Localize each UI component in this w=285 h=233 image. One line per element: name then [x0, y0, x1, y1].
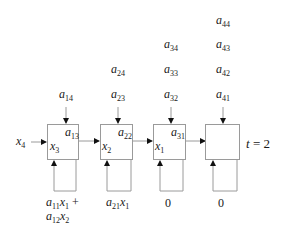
label-a42: a42 — [216, 63, 230, 78]
label-a32: a32 — [164, 88, 178, 103]
label-a34: a34 — [164, 38, 178, 53]
weight-a31: a31 — [171, 126, 185, 141]
label-a41: a41 — [216, 88, 230, 103]
feedback-loop-3 — [160, 160, 183, 191]
weight-a22: a22 — [118, 126, 132, 141]
label-a44: a44 — [216, 14, 230, 29]
accumulator-2: a21x1 — [106, 196, 129, 211]
feedback-loop-1 — [54, 160, 76, 191]
cell-4 — [205, 124, 240, 160]
label-a14: a14 — [59, 88, 73, 103]
state-x1: x1 — [155, 140, 164, 155]
time-label: t = 2 — [246, 137, 270, 150]
state-x2: x2 — [102, 140, 111, 155]
label-a23: a23 — [111, 88, 125, 103]
accumulator-3: 0 — [165, 197, 171, 209]
weight-a13: a13 — [65, 126, 79, 141]
input-x4: x4 — [16, 135, 25, 150]
label-a33: a33 — [164, 63, 178, 78]
wiring — [0, 0, 285, 233]
accumulator-1-line2: a12x2 — [46, 210, 69, 225]
label-a43: a43 — [216, 38, 230, 53]
label-a24: a24 — [111, 63, 125, 78]
accumulator-4: 0 — [218, 197, 224, 209]
state-x3: x3 — [50, 140, 59, 155]
feedback-loop-2 — [107, 160, 131, 191]
feedback-loop-4 — [213, 160, 237, 191]
